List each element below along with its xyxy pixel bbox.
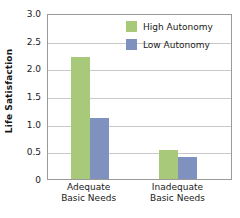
y-axis-tick-label: 2.0: [27, 64, 41, 74]
y-axis-tick-label: 1.5: [27, 92, 41, 102]
bar: [159, 150, 178, 179]
legend-item: High Autonomy: [126, 21, 213, 32]
legend-swatch-icon: [126, 21, 137, 32]
bar: [178, 157, 197, 179]
x-axis-category-label: AdequateBasic Needs: [43, 182, 135, 204]
plot-area: High AutonomyLow Autonomy: [47, 14, 232, 180]
x-axis-category-label-line: Adequate: [67, 182, 110, 192]
y-axis-tick-label: 0.5: [27, 147, 41, 157]
y-axis-title: Life Satisfaction: [0, 0, 18, 182]
legend-item-label: High Autonomy: [143, 22, 213, 32]
y-axis-tick-label: 0: [35, 175, 41, 185]
x-axis-category-label-line: Inadequate: [152, 182, 203, 192]
y-axis-tick-label: 3.0: [27, 9, 41, 19]
legend-swatch-icon: [126, 39, 137, 50]
legend-item: Low Autonomy: [126, 39, 213, 50]
legend-item-label: Low Autonomy: [143, 40, 210, 50]
x-axis-category-label: InadequateBasic Needs: [131, 182, 223, 204]
bar-chart: Life Satisfaction 00.51.01.52.02.53.0 Hi…: [0, 0, 240, 218]
bar: [90, 118, 109, 179]
x-axis-category-label-line: Basic Needs: [43, 193, 135, 204]
bar: [71, 57, 90, 179]
chart-legend: High AutonomyLow Autonomy: [126, 21, 213, 50]
y-axis-title-text: Life Satisfaction: [4, 49, 14, 133]
y-axis-tick-labels: 00.51.01.52.02.53.0: [18, 14, 44, 180]
x-axis-category-labels: AdequateBasic NeedsInadequateBasic Needs: [47, 182, 232, 216]
x-axis-category-label-line: Basic Needs: [131, 193, 223, 204]
y-axis-tick-label: 1.0: [27, 120, 41, 130]
y-axis-tick-label: 2.5: [27, 37, 41, 47]
